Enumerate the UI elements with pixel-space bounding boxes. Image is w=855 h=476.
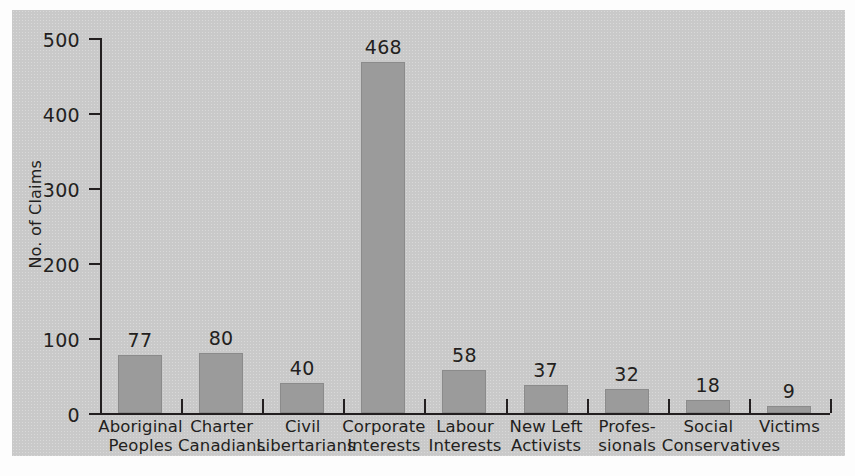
plot-area: 0100200300400500 778040468583732189 Abor… <box>100 38 830 413</box>
category-label-line2: Conservatives <box>662 436 755 455</box>
y-axis-line <box>100 38 102 413</box>
bar-value-label: 18 <box>695 374 720 396</box>
y-tick-label-500: 500 <box>43 29 80 51</box>
category-label-line1: Civil <box>285 417 321 436</box>
y-tick-label-0: 0 <box>68 404 80 426</box>
category-label-line2: Interests <box>337 436 430 455</box>
x-tick-4 <box>424 399 426 413</box>
bar-value-label: 80 <box>209 327 234 349</box>
bar: 18 <box>686 400 730 414</box>
bar-value-label: 9 <box>783 380 795 402</box>
x-tick-8 <box>749 399 751 413</box>
x-tick-3 <box>343 399 345 413</box>
bar-value-label: 32 <box>614 363 639 385</box>
y-tick-200: 200 <box>89 263 100 265</box>
category-label-line1: Social <box>684 417 734 436</box>
bar: 9 <box>767 406 811 413</box>
category-label-line2: Activists <box>500 436 593 455</box>
bar-value-label: 77 <box>128 329 153 351</box>
bar: 468 <box>361 62 405 413</box>
x-tick-2 <box>262 399 264 413</box>
category-label-line2: Canadians <box>175 436 268 455</box>
category-label: Victims <box>743 417 836 436</box>
y-tick-label-100: 100 <box>43 329 80 351</box>
category-label-line1: Profes- <box>599 417 656 436</box>
bar: 77 <box>118 355 162 413</box>
x-tick-6 <box>587 399 589 413</box>
y-tick-100: 100 <box>89 338 100 340</box>
bar-value-label: 468 <box>365 36 402 58</box>
bar-value-label: 40 <box>290 357 315 379</box>
y-tick-label-200: 200 <box>43 254 80 276</box>
category-label: AboriginalPeoples <box>94 417 187 455</box>
bar: 40 <box>280 383 324 413</box>
category-label-line1: Corporate <box>342 417 425 436</box>
category-label-line2: sionals <box>581 436 674 455</box>
x-tick-1 <box>181 399 183 413</box>
x-tick-9 <box>830 399 832 413</box>
y-tick-0: 0 <box>89 413 100 415</box>
category-label-line2: Libertarians <box>256 436 349 455</box>
category-label: Profes-sionals <box>581 417 674 455</box>
category-label-line1: Charter <box>190 417 253 436</box>
y-tick-500: 500 <box>89 38 100 40</box>
y-tick-label-300: 300 <box>43 179 80 201</box>
category-label-line1: Aboriginal <box>98 417 182 436</box>
bar-value-label: 37 <box>533 359 558 381</box>
bar: 80 <box>199 353 243 413</box>
category-label: LabourInterests <box>418 417 511 455</box>
y-tick-label-400: 400 <box>43 104 80 126</box>
x-tick-5 <box>506 399 508 413</box>
chart-panel: No. of Claims 0100200300400500 778040468… <box>12 10 845 456</box>
bar-value-label: 58 <box>452 344 477 366</box>
category-label: CorporateInterests <box>337 417 430 455</box>
category-label: New LeftActivists <box>500 417 593 455</box>
category-label-line2: Peoples <box>94 436 187 455</box>
y-tick-400: 400 <box>89 113 100 115</box>
category-label: SocialConservatives <box>662 417 755 455</box>
category-label-line1: Victims <box>759 417 820 436</box>
x-axis-line <box>100 413 830 415</box>
bar: 58 <box>442 370 486 414</box>
y-axis-title: No. of Claims <box>26 160 45 269</box>
bar: 37 <box>524 385 568 413</box>
category-label-line2: Interests <box>418 436 511 455</box>
x-tick-7 <box>668 399 670 413</box>
category-label: CharterCanadians <box>175 417 268 455</box>
category-label: CivilLibertarians <box>256 417 349 455</box>
y-tick-300: 300 <box>89 188 100 190</box>
category-label-line1: New Left <box>510 417 583 436</box>
figure-page: No. of Claims 0100200300400500 778040468… <box>0 0 855 476</box>
category-label-line1: Labour <box>436 417 494 436</box>
bar: 32 <box>605 389 649 413</box>
